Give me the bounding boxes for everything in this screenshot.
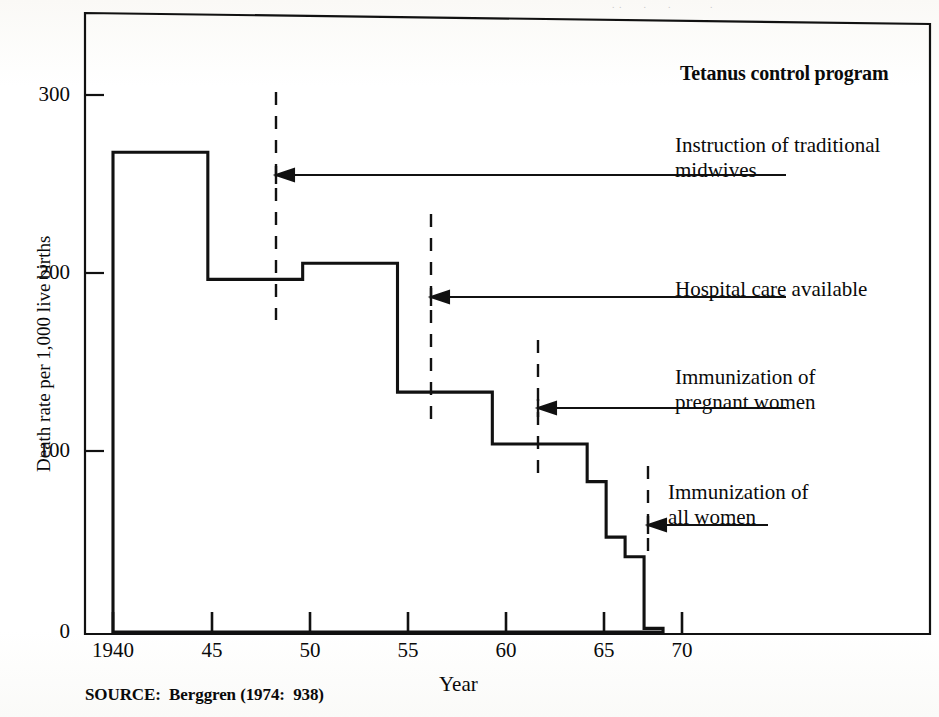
annotation-heading: Tetanus control program	[680, 62, 888, 86]
x-tick-label-55: 55	[373, 638, 443, 663]
source-note: SOURCE: Berggren (1974: 938)	[85, 685, 324, 705]
annotation-leaders	[276, 166, 786, 534]
histogram-outline	[113, 152, 663, 632]
y-tick-label-300: 300	[8, 82, 70, 107]
y-axis-ticks	[85, 95, 104, 451]
annotation-midwives-line2: midwives	[675, 158, 757, 183]
figure-canvas: . . . . .	[0, 0, 939, 717]
plot-frame	[85, 13, 930, 634]
x-tick-label-50: 50	[275, 638, 345, 663]
y-tick-label-200: 200	[8, 260, 70, 285]
x-tick-label-45: 45	[177, 638, 247, 663]
y-tick-label-100: 100	[8, 438, 70, 463]
event-marker-lines	[276, 92, 648, 556]
y-tick-label-0: 0	[8, 619, 70, 644]
x-axis-title: Year	[439, 672, 478, 697]
annotation-pregnant-line1: Immunization of	[675, 365, 816, 390]
annotation-midwives-line1: Instruction of traditional	[675, 133, 880, 158]
annotation-pregnant-line2: pregnant women	[675, 390, 816, 415]
x-tick-label-1940: 1940	[78, 638, 148, 663]
chart-plot	[0, 0, 939, 717]
annotation-allwomen-line2: all women	[668, 505, 756, 530]
annotation-hospital-line1: Hospital care available	[675, 277, 867, 302]
annotation-allwomen-line1: Immunization of	[668, 480, 809, 505]
x-tick-label-65: 65	[569, 638, 639, 663]
x-tick-label-60: 60	[471, 638, 541, 663]
x-tick-label-70: 70	[647, 638, 717, 663]
